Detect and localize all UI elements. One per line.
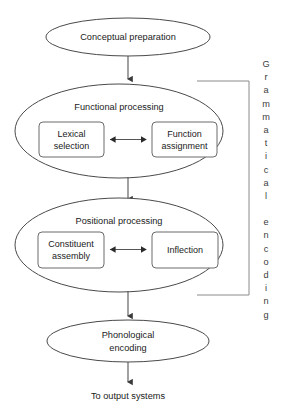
bracket-letter: i	[265, 282, 267, 295]
box-lexical-selection-line2: selection	[54, 141, 90, 151]
node-phonological-encoding-line2: encoding	[109, 343, 146, 353]
node-conceptual-preparation-label: Conceptual preparation	[80, 32, 176, 42]
bracket-letter: o	[263, 256, 268, 269]
bracket-letter: m	[262, 111, 270, 124]
flowchart-canvas: Conceptual preparation Functional proces…	[0, 0, 285, 410]
bracket-letter: l	[265, 190, 267, 203]
box-constituent-assembly-line1: Constituent	[48, 239, 94, 249]
bracket-letter: i	[265, 150, 267, 163]
diagram-root: Conceptual preparation Functional proces…	[0, 0, 285, 410]
box-function-assignment-line2: assignment	[161, 141, 208, 151]
bracket-letter: a	[263, 84, 268, 97]
node-functional-processing-label: Functional processing	[74, 102, 163, 112]
grammatical-encoding-vertical-label: G r a m m a t i c a l e n c o d i n g	[256, 58, 276, 322]
box-lexical-selection	[39, 122, 104, 157]
box-function-assignment-line1: Function	[167, 129, 202, 139]
bracket-letter: n	[263, 229, 268, 242]
bracket-letter: d	[263, 269, 268, 282]
bracket-letter: r	[264, 71, 267, 84]
box-lexical-selection-line1: Lexical	[57, 129, 85, 139]
box-constituent-assembly-line2: assembly	[52, 251, 91, 261]
bracket-letter: t	[265, 137, 268, 150]
bracket-letter: g	[263, 309, 268, 322]
output-systems-label: To output systems	[91, 391, 165, 401]
node-phonological-encoding	[47, 320, 209, 362]
box-inflection-label: Inflection	[167, 245, 203, 255]
bracket-letter: a	[263, 124, 268, 137]
bracket-letter: c	[264, 243, 269, 256]
bracket-letter: m	[262, 98, 270, 111]
bracket-letter: e	[263, 216, 268, 229]
bracket-letter: a	[263, 177, 268, 190]
box-function-assignment	[152, 122, 217, 157]
bracket-letter: G	[262, 58, 269, 71]
node-phonological-encoding-line1: Phonological	[102, 330, 155, 340]
node-positional-processing-label: Positional processing	[76, 216, 163, 226]
bracket-letter: n	[263, 295, 268, 308]
bracket-letter: c	[264, 164, 269, 177]
